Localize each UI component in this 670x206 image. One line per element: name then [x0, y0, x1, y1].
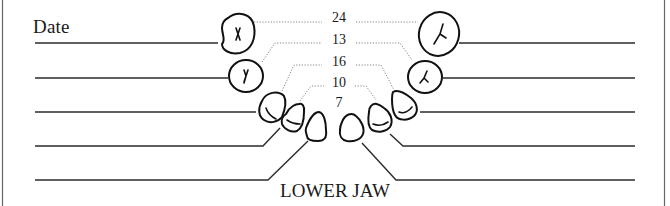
eruption-age-16: 16 — [324, 55, 354, 69]
tooth-right-lateral-incisor — [368, 104, 391, 132]
right-line-4 — [390, 134, 635, 146]
eruption-age-10: 10 — [324, 76, 354, 90]
left-line-4 — [35, 128, 280, 146]
tooth-right-second-molar — [414, 8, 464, 61]
right-teeth — [340, 8, 464, 142]
eruption-age-24: 24 — [324, 11, 354, 25]
tooth-left-central-incisor — [306, 112, 327, 141]
eruption-age-7: 7 — [324, 96, 354, 110]
tooth-left-canine — [259, 93, 285, 123]
lower-jaw-chart: Date 24 13 16 10 7 LOWER JAW — [0, 0, 670, 206]
tooth-right-central-incisor — [340, 114, 364, 141]
jaw-title: LOWER JAW — [0, 180, 670, 202]
right-line-5 — [362, 143, 635, 180]
date-label: Date — [33, 16, 70, 38]
tooth-right-canine — [392, 91, 417, 120]
eruption-age-13: 13 — [324, 33, 354, 47]
left-line-5 — [35, 141, 308, 180]
